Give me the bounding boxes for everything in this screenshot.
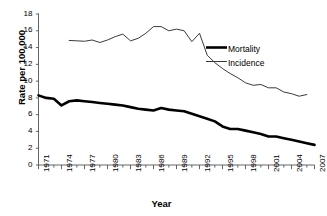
- x-axis-tick-label: 2007: [318, 154, 327, 172]
- legend-item-mortality: Mortality: [228, 44, 260, 54]
- x-axis-tick-label: 1989: [180, 154, 189, 172]
- x-axis-tick-label: 1995: [226, 154, 235, 172]
- y-axis-tick-label: 4: [13, 126, 33, 135]
- legend-item-incidence: Incidence: [228, 58, 264, 68]
- y-axis-tick-label: 2: [13, 143, 33, 152]
- chart-axes: [36, 14, 315, 170]
- x-axis-tick-label: 1971: [42, 154, 51, 172]
- chart-legend-lines: [206, 48, 227, 62]
- series-line-mortality: [39, 95, 315, 144]
- series-line-incidence: [69, 27, 307, 97]
- x-axis-tick-label: 1986: [157, 154, 166, 172]
- x-axis-tick-label: 1977: [88, 154, 97, 172]
- x-axis-tick-label: 1980: [111, 154, 120, 172]
- x-axis-tick-label: 2001: [272, 154, 281, 172]
- y-axis-title: Rate per 100,000: [16, 13, 27, 123]
- x-axis-title: Year: [0, 198, 323, 209]
- x-axis-tick-label: 1974: [65, 154, 74, 172]
- chart-series-group: [39, 27, 315, 145]
- x-axis-tick-label: 1983: [134, 154, 143, 172]
- x-axis-tick-label: 2004: [295, 154, 304, 172]
- x-axis-tick-label: 1992: [203, 154, 212, 172]
- y-axis-tick-label: 0: [13, 160, 33, 169]
- x-axis-tick-label: 1998: [249, 154, 258, 172]
